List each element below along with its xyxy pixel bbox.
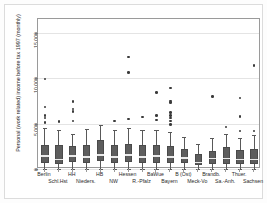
outlier-point xyxy=(239,115,242,118)
outlier-point xyxy=(127,118,130,121)
whisker-cap-upper xyxy=(140,130,144,131)
x-tick-mark xyxy=(58,169,59,172)
whisker-cap-upper xyxy=(182,137,186,138)
whisker-upper xyxy=(226,134,227,147)
outlier-point xyxy=(155,119,158,122)
x-tick-label-bayern: Bayern xyxy=(161,178,177,184)
y-axis-tick-labels: 05,00010,00015,000 xyxy=(20,18,36,168)
x-tick-label-hb: HB xyxy=(96,171,103,177)
median-line xyxy=(97,154,104,155)
box-plot-sachsen xyxy=(247,19,261,167)
whisker-cap-upper xyxy=(196,144,200,145)
whisker-upper xyxy=(86,129,87,145)
box-iqr xyxy=(97,140,104,161)
box-plot-nw xyxy=(108,19,122,167)
x-tick-label-berlin: Berlin xyxy=(37,171,50,177)
median-line xyxy=(209,158,216,159)
outlier-point xyxy=(169,114,172,117)
whisker-upper xyxy=(114,130,115,145)
whisker-upper xyxy=(198,144,199,154)
box-plot-berlin xyxy=(38,19,52,167)
median-line xyxy=(55,159,62,160)
whisker-upper xyxy=(170,132,171,147)
x-tick-label-bawue: BaWue xyxy=(147,171,164,177)
whisker-cap-upper xyxy=(57,130,61,131)
whisker-upper xyxy=(128,128,129,143)
median-line xyxy=(69,155,76,156)
box-iqr xyxy=(223,147,230,163)
x-tick-mark xyxy=(86,169,87,172)
outlier-point xyxy=(225,126,228,129)
box-iqr xyxy=(55,145,62,163)
x-tick-mark xyxy=(114,169,115,172)
whisker-upper xyxy=(100,125,101,140)
figure: Personal (work related) income before ta… xyxy=(0,0,267,203)
box-plot-b-ost xyxy=(177,19,191,167)
whisker-cap-upper xyxy=(154,130,158,131)
box-iqr xyxy=(153,145,160,162)
box-plot-schl-hst xyxy=(52,19,66,167)
whisker-cap-upper xyxy=(113,130,117,131)
whisker-lower xyxy=(128,162,129,169)
outlier-point xyxy=(169,111,172,114)
whisker-upper xyxy=(44,128,45,145)
whisker-upper xyxy=(72,134,73,147)
whisker-cap-upper xyxy=(210,138,214,139)
outlier-point xyxy=(127,56,130,59)
box-iqr xyxy=(83,145,90,162)
whisker-cap-upper xyxy=(71,134,75,135)
box-iqr xyxy=(167,146,174,162)
outlier-point xyxy=(169,100,172,103)
x-axis-tick-labels: BerlinSchl.HstHHNieders.HBNWHessenR.-Pfa… xyxy=(37,169,260,195)
whisker-cap-upper xyxy=(252,135,256,136)
x-tick-mark xyxy=(197,169,198,172)
median-line xyxy=(250,159,257,160)
outlier-point xyxy=(169,87,172,90)
median-line xyxy=(111,156,118,157)
x-tick-mark xyxy=(142,169,143,172)
median-line xyxy=(236,159,243,160)
x-tick-mark xyxy=(169,169,170,172)
median-line xyxy=(223,158,230,159)
whisker-upper xyxy=(254,135,255,149)
whisker-upper xyxy=(142,130,143,145)
whisker-lower xyxy=(100,161,101,169)
whisker-cap-upper xyxy=(238,138,242,139)
whisker-upper xyxy=(240,138,241,150)
outlier-point xyxy=(155,114,158,117)
whisker-upper xyxy=(58,130,59,145)
outlier-point xyxy=(169,120,172,123)
box-plot-hessen xyxy=(122,19,136,167)
whisker-upper xyxy=(212,138,213,151)
box-plot-sa-anh xyxy=(219,19,233,167)
x-tick-label-thuer: Thuer. xyxy=(232,171,247,177)
box-plot-brandb xyxy=(205,19,219,167)
outlier-point xyxy=(253,64,256,67)
box-iqr xyxy=(181,149,188,163)
x-tick-label-nieders: Nieders. xyxy=(76,178,95,184)
outlier-point xyxy=(113,120,116,123)
outlier-point xyxy=(169,117,172,120)
box-plot-r-pfalz xyxy=(136,19,150,167)
outlier-point xyxy=(127,71,130,74)
median-line xyxy=(139,156,146,157)
x-tick-label-sachsen: Sachsen xyxy=(243,178,263,184)
x-tick-label-sa-anh: Sa.-Anh. xyxy=(215,178,235,184)
box-iqr xyxy=(139,145,146,162)
whisker-cap-upper xyxy=(43,128,47,129)
x-tick-label-hessen: Hessen xyxy=(119,171,137,177)
x-tick-label-meck-vo: Meck-Vo xyxy=(187,178,207,184)
median-line xyxy=(41,155,48,156)
box-plot-bawue xyxy=(150,19,164,167)
outlier-point xyxy=(58,120,61,123)
outlier-point xyxy=(72,120,75,123)
median-line xyxy=(167,156,174,157)
box-iqr xyxy=(41,145,48,162)
outlier-point xyxy=(211,95,214,98)
outlier-point xyxy=(239,130,242,133)
x-tick-mark xyxy=(225,169,226,172)
x-tick-label-b-ost: B (Ost) xyxy=(175,171,191,177)
x-tick-label-brandb: Brandb. xyxy=(202,171,220,177)
outlier-point xyxy=(239,97,242,100)
outlier-point xyxy=(155,91,158,94)
